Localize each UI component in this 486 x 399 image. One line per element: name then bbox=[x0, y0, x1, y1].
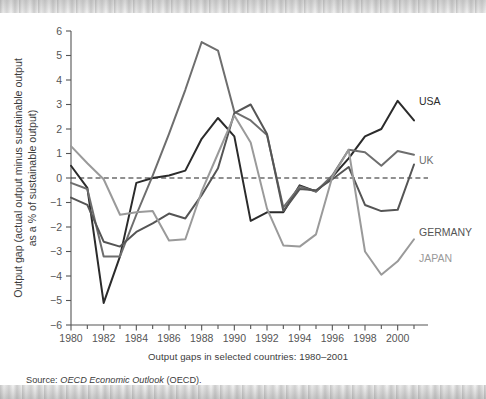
x-tick-label: 1994 bbox=[288, 332, 312, 344]
series-label-germany: GERMANY bbox=[419, 226, 472, 238]
y-tick-label: −5 bbox=[50, 294, 62, 306]
y-tick-label: −1 bbox=[50, 196, 62, 208]
source-suffix: (OECD). bbox=[166, 375, 201, 385]
series-label-usa: USA bbox=[419, 95, 441, 107]
page-texture-bottom bbox=[0, 385, 486, 399]
line-chart: 6543210−1−2−3−4−5−6198019821984198619881… bbox=[0, 13, 486, 385]
series-label-japan: JAPAN bbox=[419, 252, 452, 264]
x-tick-label: 1982 bbox=[92, 332, 116, 344]
series-line-uk bbox=[71, 42, 414, 256]
x-tick-label: 1988 bbox=[190, 332, 214, 344]
source-prefix: Source: bbox=[26, 375, 58, 385]
y-tick-label: −3 bbox=[50, 245, 62, 257]
x-tick-label: 1992 bbox=[255, 332, 279, 344]
page-texture-top bbox=[0, 0, 486, 13]
x-tick-label: 1998 bbox=[353, 332, 377, 344]
chart-caption: Output gaps in selected countries: 1980–… bbox=[148, 351, 468, 362]
chart-figure: 6543210−1−2−3−4−5−6198019821984198619881… bbox=[0, 13, 486, 385]
y-tick-label: 5 bbox=[56, 49, 62, 61]
y-tick-label: 6 bbox=[56, 25, 62, 37]
series-line-usa bbox=[71, 101, 414, 303]
y-axis-title: Output gap (actual output minus sustaina… bbox=[12, 58, 38, 298]
y-tick-label: 0 bbox=[56, 172, 62, 184]
y-tick-label: −2 bbox=[50, 221, 62, 233]
x-tick-label: 1990 bbox=[223, 332, 247, 344]
y-axis-title-line2: as a % of sustainable output) bbox=[26, 110, 38, 247]
y-axis-title-line1: Output gap (actual output minus sustaina… bbox=[12, 58, 24, 298]
x-tick-label: 1986 bbox=[157, 332, 181, 344]
series-label-uk: UK bbox=[419, 154, 434, 166]
y-tick-label: −4 bbox=[50, 270, 62, 282]
x-tick-label: 2000 bbox=[386, 332, 410, 344]
y-tick-label: 3 bbox=[56, 98, 62, 110]
x-tick-label: 1984 bbox=[125, 332, 149, 344]
y-tick-label: −6 bbox=[50, 319, 62, 331]
source-publication: OECD Economic Outlook bbox=[60, 375, 164, 385]
y-tick-label: 4 bbox=[56, 74, 62, 86]
x-tick-label: 1980 bbox=[59, 332, 83, 344]
y-tick-label: 1 bbox=[56, 147, 62, 159]
source-note: Source: OECD Economic Outlook (OECD). bbox=[26, 375, 202, 385]
x-tick-label: 1996 bbox=[321, 332, 345, 344]
y-tick-label: 2 bbox=[56, 123, 62, 135]
